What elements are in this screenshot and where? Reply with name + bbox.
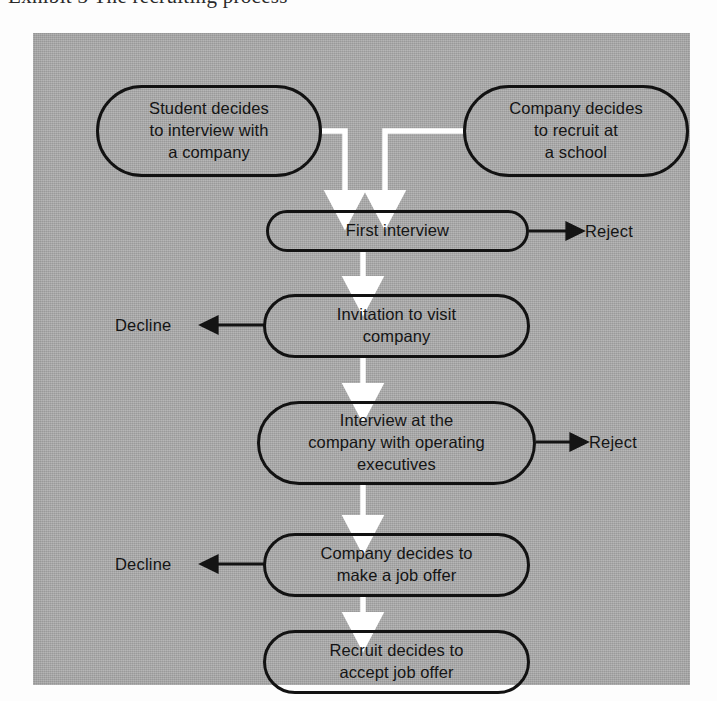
node-label: Company decides to make a job offer [320,543,472,587]
outcome-label-decline-1: Decline [115,316,171,335]
clipped-caption-strip: Exhibit 3 The recruiting process [0,0,717,18]
scanned-page: Exhibit 3 The recruiting process [0,0,717,701]
node-label: Company decides to recruit at a school [509,98,643,164]
outcome-label-reject-1: Reject [585,222,633,241]
node-student-decides[interactable]: Student decides to interview with a comp… [96,85,322,177]
node-company-decides-recruit[interactable]: Company decides to recruit at a school [463,85,689,177]
node-label: Invitation to visit company [337,304,456,348]
clipped-caption-text: Exhibit 3 The recruiting process [8,0,288,9]
node-first-interview[interactable]: First interview [266,210,529,252]
node-label: Interview at the company with operating … [308,410,484,476]
node-label: Student decides to interview with a comp… [149,98,269,164]
node-invitation-to-visit[interactable]: Invitation to visit company [263,294,530,358]
edge-company-to-first-interview [385,131,463,193]
edge-student-to-first-interview [322,131,345,193]
node-label: First interview [346,220,449,242]
node-company-job-offer[interactable]: Company decides to make a job offer [263,533,530,597]
outcome-label-decline-2: Decline [115,555,171,574]
node-recruit-accepts[interactable]: Recruit decides to accept job offer [263,630,530,694]
figure-panel: Student decides to interview with a comp… [33,33,690,685]
node-label: Recruit decides to accept job offer [330,640,464,684]
outcome-label-reject-2: Reject [589,433,637,452]
node-interview-at-company[interactable]: Interview at the company with operating … [257,401,536,485]
